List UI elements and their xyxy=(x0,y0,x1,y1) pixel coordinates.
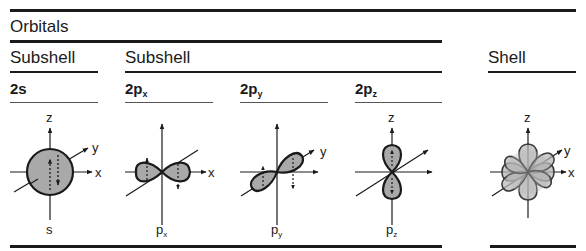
bottom-rule-subshells xyxy=(10,245,442,248)
svg-text:x: x xyxy=(568,165,575,180)
caption-s: s xyxy=(46,222,53,237)
caption-pz: pz xyxy=(386,222,397,239)
bottom-rule-shell xyxy=(490,245,576,248)
svg-text:y: y xyxy=(92,140,99,155)
svg-text:x: x xyxy=(95,165,102,180)
orbital-2px: x xyxy=(125,124,215,225)
svg-text:z: z xyxy=(524,110,531,125)
orbital-diagrams: z y x x y z xyxy=(0,0,586,251)
svg-text:z: z xyxy=(46,110,53,125)
caption-py: py xyxy=(271,222,282,239)
orbital-2pz: z xyxy=(355,110,432,225)
svg-text:x: x xyxy=(208,165,215,180)
caption-px: px xyxy=(156,222,167,239)
orbital-2s: z y x xyxy=(10,110,102,220)
svg-text:z: z xyxy=(388,110,395,125)
svg-text:y: y xyxy=(564,143,571,158)
orbital-shell: z y x xyxy=(490,110,575,218)
svg-text:y: y xyxy=(320,144,327,159)
orbital-2py: y xyxy=(240,124,327,225)
